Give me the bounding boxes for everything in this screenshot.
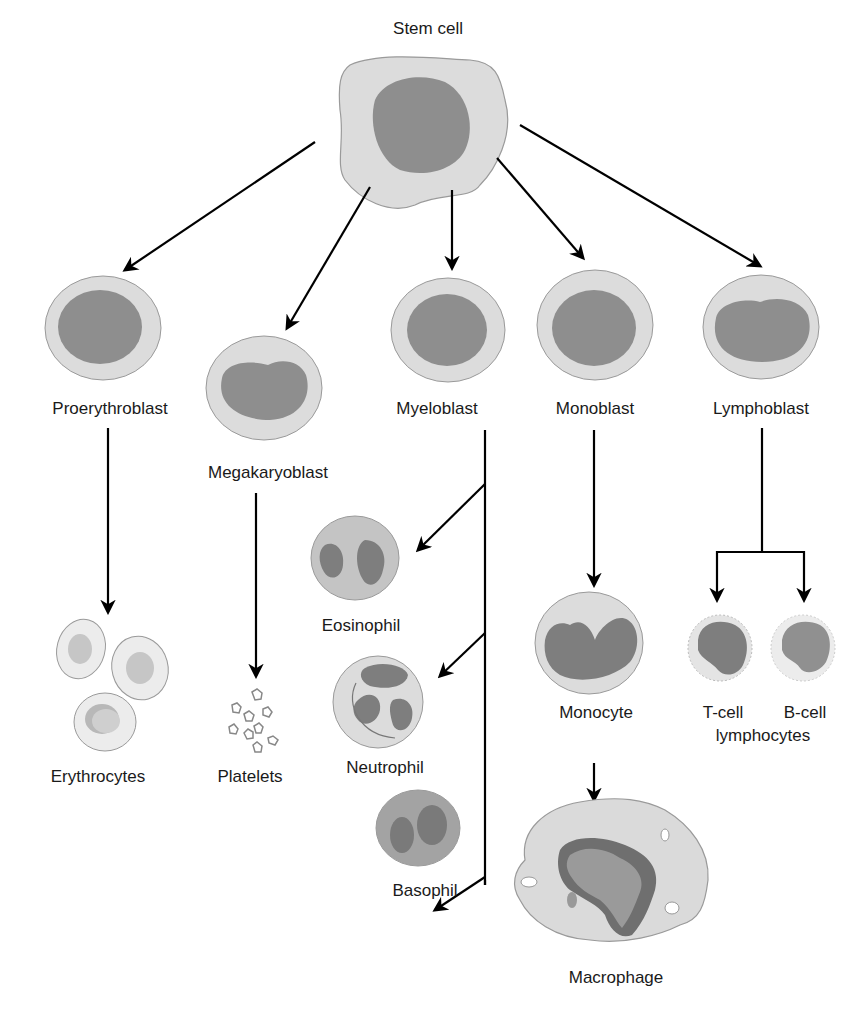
t-cell-icon <box>688 615 752 681</box>
label-eosinophil: Eosinophil <box>322 615 400 636</box>
label-macrophage: Macrophage <box>569 967 664 988</box>
label-neutrophil: Neutrophil <box>346 757 424 778</box>
megakaryoblast-icon <box>206 336 322 440</box>
myeloblast-icon <box>391 278 505 382</box>
label-myeloblast: Myeloblast <box>396 398 477 419</box>
monocyte-icon <box>535 592 643 694</box>
label-platelets: Platelets <box>217 766 282 787</box>
neutrophil-icon <box>333 656 423 748</box>
b-cell-icon <box>771 615 835 681</box>
arrows-lymphoblast <box>717 428 804 600</box>
macrophage-icon <box>515 799 709 942</box>
label-b-cell: B-cell <box>784 702 827 723</box>
basophil-icon <box>376 790 460 866</box>
label-stem-cell: Stem cell <box>393 18 463 39</box>
hematopoiesis-diagram <box>0 0 868 1013</box>
label-lymphocytes: lymphocytes <box>716 725 810 746</box>
eosinophil-icon <box>311 516 399 600</box>
label-t-cell: T-cell <box>703 702 744 723</box>
label-monocyte: Monocyte <box>559 702 633 723</box>
label-monoblast: Monoblast <box>556 398 634 419</box>
platelets-icon <box>229 689 278 752</box>
label-proerythroblast: Proerythroblast <box>52 398 167 419</box>
label-megakaryoblast: Megakaryoblast <box>208 462 328 483</box>
proerythroblast-icon <box>45 276 161 380</box>
stem-cell-icon <box>339 57 507 208</box>
label-erythrocytes: Erythrocytes <box>51 766 145 787</box>
label-lymphoblast: Lymphoblast <box>713 398 809 419</box>
label-basophil: Basophil <box>392 880 457 901</box>
erythrocytes-icon <box>50 614 175 751</box>
lymphoblast-icon <box>703 275 819 379</box>
monoblast-icon <box>537 270 653 380</box>
